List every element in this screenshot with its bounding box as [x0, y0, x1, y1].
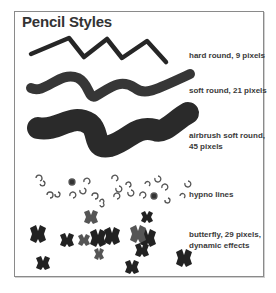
- label-soft-round: soft round, 21 pixels: [189, 85, 267, 96]
- airbrush-stroke: [38, 113, 188, 147]
- label-airbrush: airbrush soft round,: [189, 130, 265, 141]
- label-butterfly: butterfly, 29 pixels,: [189, 229, 261, 240]
- label-hypno-lines: hypno lines: [189, 189, 233, 200]
- hypno-lines-stroke: [36, 175, 191, 207]
- label-butterfly-effects: dynamic effects: [189, 240, 249, 251]
- label-airbrush-size: 45 pixels: [189, 141, 223, 152]
- soft-round-stroke: [31, 74, 190, 97]
- butterfly-stroke: [30, 210, 192, 274]
- label-hard-round: hard round, 9 pixels: [189, 50, 265, 61]
- hard-round-stroke: [31, 38, 166, 62]
